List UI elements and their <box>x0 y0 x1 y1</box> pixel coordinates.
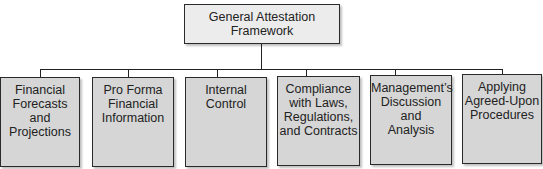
node-label-line: Internal <box>186 83 266 97</box>
child-4-stem <box>306 69 307 76</box>
node-label-line: Procedures <box>463 108 541 122</box>
node-agreed-upon-procedures: Applying Agreed-Upon Procedures <box>462 74 542 164</box>
child-2-stem <box>128 69 129 77</box>
node-label-line: Applying <box>463 80 541 94</box>
root-node-label: General Attestation Framework <box>185 10 339 38</box>
node-label-line: and Contracts <box>278 124 359 138</box>
node-label-line: Management’s <box>371 81 451 95</box>
node-pro-forma: Pro Forma Financial Information <box>92 77 174 167</box>
root-node: General Attestation Framework <box>184 4 340 44</box>
root-stem-line <box>261 44 262 69</box>
node-label-line: Information <box>93 111 173 125</box>
child-1-stem <box>40 69 41 77</box>
node-md-and-a: Management’s Discussion and Analysis <box>370 75 452 165</box>
node-label-line: Compliance <box>278 82 359 96</box>
node-label-line: Forecasts and <box>1 97 79 125</box>
node-label-line: with Laws, <box>278 96 359 110</box>
horizontal-bus-line <box>40 69 503 70</box>
child-3-stem <box>217 69 218 77</box>
node-label-line: Regulations, <box>278 110 359 124</box>
node-label-line: Financial <box>93 97 173 111</box>
node-label-line: Agreed-Upon <box>463 94 541 108</box>
node-label-line: Financial <box>1 83 79 97</box>
node-label-line: Analysis <box>371 123 451 137</box>
node-internal-control: Internal Control <box>185 77 267 167</box>
node-label-line: Projections <box>1 125 79 139</box>
node-financial-forecasts: Financial Forecasts and Projections <box>0 77 80 167</box>
node-label-line: Discussion and <box>371 95 451 123</box>
node-label-line: Control <box>186 97 266 111</box>
node-compliance: Compliance with Laws, Regulations, and C… <box>277 76 360 166</box>
node-label-line: Pro Forma <box>93 83 173 97</box>
